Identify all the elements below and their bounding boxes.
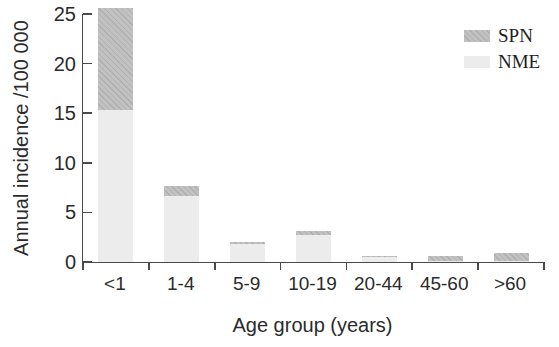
x-tick-label: 20-44 [345,273,411,295]
legend-row: NME [464,52,540,71]
legend-label: SPN [498,26,533,45]
bar-segment-nme [428,261,463,262]
y-tick-label: 10 [28,153,76,173]
x-axis-title: Age group (years) [82,314,543,337]
x-tick-mark [82,262,84,270]
x-tick-label: 1-4 [148,273,214,295]
y-tick-mark [83,162,92,164]
bar-segment-spn [362,256,397,257]
x-tick-label: 5-9 [214,273,280,295]
x-tick-mark [214,262,216,270]
bar-segment-nme [230,244,265,262]
y-tick-label: 15 [28,103,76,123]
x-tick-label: 10-19 [280,273,346,295]
legend: SPNNME [464,26,540,78]
x-tick-label: >60 [477,273,543,295]
bar-segment-nme [296,235,331,262]
y-tick-mark [83,63,92,65]
bar-segment-nme [494,261,529,262]
y-tick-label: 25 [28,4,76,24]
x-tick-mark [280,262,282,270]
legend-row: SPN [464,26,540,45]
x-tick-label: 45-60 [411,273,477,295]
y-tick-label: 5 [28,202,76,222]
x-tick-mark [346,262,348,270]
bar-segment-nme [362,257,397,262]
bar-segment-spn [98,8,133,110]
y-tick-mark [83,212,92,214]
x-tick-mark [411,262,413,270]
x-tick-label: <1 [82,273,148,295]
y-tick-label: 0 [28,252,76,272]
y-tick-mark [83,261,92,263]
bar-segment-spn [428,256,463,261]
bar-segment-nme [164,196,199,262]
y-tick-mark [83,112,92,114]
bar-segment-spn [494,253,529,261]
legend-label: NME [498,52,540,71]
bar-segment-spn [296,231,331,235]
bar-segment-nme [98,110,133,262]
x-tick-mark [148,262,150,270]
bar-segment-spn [230,242,265,244]
chart-figure: Annual incidence /100 000 Age group (yea… [0,0,559,347]
y-tick-label: 20 [28,54,76,74]
legend-swatch-spn [464,30,490,42]
y-tick-mark [83,13,92,15]
bar-segment-spn [164,186,199,196]
legend-swatch-nme [464,56,490,68]
x-tick-mark [543,262,545,270]
x-tick-mark [477,262,479,270]
